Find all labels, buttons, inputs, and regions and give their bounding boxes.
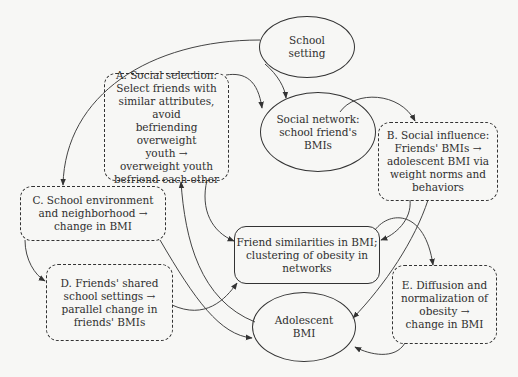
edge-social-selection-to-social-network xyxy=(226,74,262,108)
node-social-influence-label: B. Social influence: Friends' BMIs → ado… xyxy=(387,129,490,194)
node-social-selection: A. Social selection: Select friends with… xyxy=(104,73,229,181)
node-adolescent-bmi: Adolescent BMI xyxy=(252,292,356,362)
node-diffusion-label: E. Diffusion and normalization of obesit… xyxy=(401,279,488,331)
node-social-network: Social network: school friend's BMIs xyxy=(260,92,376,172)
node-social-influence: B. Social influence: Friends' BMIs → ado… xyxy=(378,122,498,201)
node-school-environment: C. School environment and neighborhood →… xyxy=(20,186,166,241)
edge-friend-similarities-to-diffusion xyxy=(375,218,433,265)
node-social-network-label: Social network: school friend's BMIs xyxy=(276,113,359,152)
node-friend-similarities-label: Friend similarities in BMI; clustering o… xyxy=(237,236,378,275)
edge-social-influence-to-friend-similarities xyxy=(381,200,410,240)
node-shared-settings-label: D. Friends' shared school settings → par… xyxy=(60,277,158,329)
node-adolescent-bmi-label: Adolescent BMI xyxy=(275,314,334,340)
node-school-setting-label: School setting xyxy=(289,34,326,60)
node-shared-settings: D. Friends' shared school settings → par… xyxy=(46,264,173,341)
node-friend-similarities: Friend similarities in BMI; clustering o… xyxy=(234,226,380,284)
node-diffusion: E. Diffusion and normalization of obesit… xyxy=(392,265,497,344)
node-school-setting: School setting xyxy=(259,16,355,78)
edge-social-selection-to-friend-similarities xyxy=(205,180,234,241)
edge-diffusion-to-adolescent-bmi xyxy=(355,343,405,354)
node-school-environment-label: C. School environment and neighborhood →… xyxy=(32,194,153,233)
edge-shared-settings-to-friend-similarities xyxy=(172,283,237,310)
edge-school-environment-to-shared-settings xyxy=(25,240,45,281)
node-social-selection-label: A. Social selection: Select friends with… xyxy=(105,69,228,186)
